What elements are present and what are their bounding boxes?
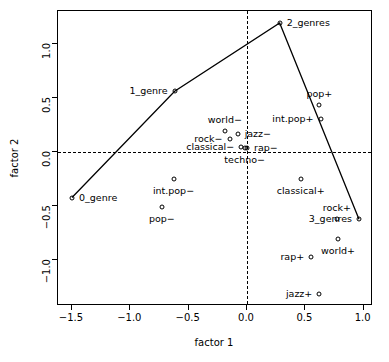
- y-axis-title: factor 2: [9, 139, 20, 178]
- point-label-world+: world+: [321, 246, 355, 256]
- point-label-pop-: pop−: [149, 214, 175, 224]
- data-point-jazz-: [235, 131, 240, 136]
- point-label-world-: world−: [208, 115, 242, 125]
- data-point-pop+: [317, 103, 322, 108]
- data-point-rock+: [334, 217, 339, 222]
- y-tick-label-1.0: 1.0: [41, 43, 52, 59]
- x-tick-label--1.0: −1.0: [117, 312, 141, 323]
- y-tick-label--1.0: −1.0: [41, 259, 52, 283]
- y-tick-label-0.0: 0.0: [41, 151, 52, 167]
- point-label-0_genre: 0_genre: [79, 193, 117, 203]
- data-point-world-: [222, 129, 227, 134]
- x-tick-label--0.5: −0.5: [176, 312, 200, 323]
- data-point-int.pop+: [318, 117, 323, 122]
- data-point-world+: [336, 236, 341, 241]
- x-tick-0.0: [246, 305, 247, 310]
- point-label-rock+: rock+: [323, 203, 351, 213]
- point-label-techno-: techno−: [224, 155, 265, 165]
- x-tick--1.0: [129, 305, 130, 310]
- x-tick--0.5: [188, 305, 189, 310]
- data-point-pop-: [159, 205, 164, 210]
- x-tick-label-0.0: 0.0: [238, 312, 254, 323]
- point-label-classical-: classical−: [186, 142, 234, 152]
- point-label-int.pop-: int.pop−: [153, 186, 194, 196]
- plot-panel: 0_genre1_genre2_genres3_genrespop−int.po…: [57, 10, 372, 305]
- point-label-classical+: classical+: [277, 186, 325, 196]
- data-point-3_genres: [357, 217, 362, 222]
- data-point-rap-: [245, 145, 250, 150]
- scatter-plot-figure: factor 2 factor 1 −1.5−1.0−0.50.00.51.0−…: [0, 0, 389, 362]
- point-label-int.pop+: int.pop+: [272, 115, 313, 125]
- point-label-jazz-: jazz−: [245, 129, 271, 139]
- point-label-1_genre: 1_genre: [129, 87, 167, 97]
- data-point-2_genres: [277, 20, 282, 25]
- data-point-classical+: [298, 177, 303, 182]
- point-label-rap-: rap−: [254, 143, 278, 153]
- point-label-3_genres: 3_genres: [309, 214, 352, 224]
- y-tick-label--0.5: −0.5: [41, 205, 52, 229]
- data-point-rap+: [309, 255, 314, 260]
- point-label-rap+: rap+: [280, 252, 304, 262]
- data-point-0_genre: [70, 195, 75, 200]
- point-label-pop+: pop+: [306, 89, 332, 99]
- point-label-jazz+: jazz+: [286, 289, 312, 299]
- plot-area: 0_genre1_genre2_genres3_genrespop−int.po…: [58, 11, 371, 304]
- data-point-1_genre: [172, 89, 177, 94]
- y-tick-label-0.5: 0.5: [41, 97, 52, 113]
- x-tick-label-0.5: 0.5: [296, 312, 312, 323]
- x-tick-label-1.0: 1.0: [355, 312, 371, 323]
- x-axis-title: factor 1: [195, 337, 234, 348]
- genre-trajectory-line: [58, 11, 371, 304]
- data-point-int.pop-: [171, 177, 176, 182]
- point-label-2_genres: 2_genres: [287, 18, 330, 28]
- data-point-jazz+: [317, 292, 322, 297]
- x-tick-1.0: [363, 305, 364, 310]
- x-tick--1.5: [71, 305, 72, 310]
- x-tick-0.5: [304, 305, 305, 310]
- x-tick-label--1.5: −1.5: [59, 312, 83, 323]
